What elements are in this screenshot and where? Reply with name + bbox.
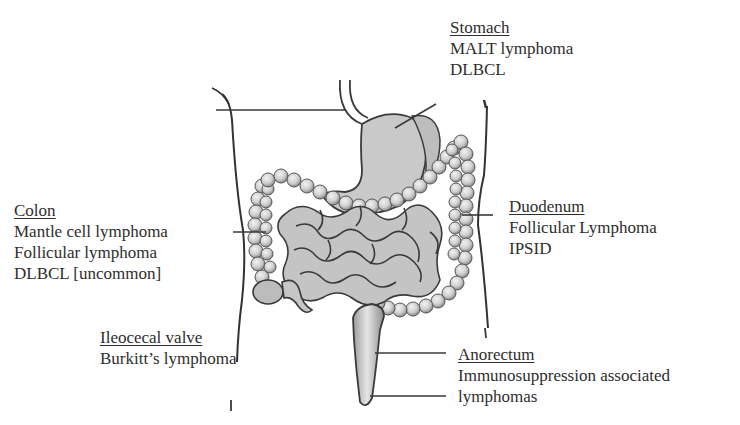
small-intestine-organ [278,205,442,305]
ileocecal-valve-label: Ileocecal valve Burkitt’s lymphoma [100,327,236,369]
rectum-organ [353,304,384,405]
colon-label: Colon Mantle cell lymphoma Follicular ly… [14,200,168,284]
stomach-heading: Stomach [450,17,573,38]
anorectum-heading: Anorectum [458,344,670,365]
body-outline-right [478,100,488,328]
colon-item: Follicular lymphoma [14,242,168,263]
esophagus [340,80,368,124]
duodenum-label: Duodenum Follicular Lymphoma IPSID [509,196,657,259]
stomach-item: DLBCL [450,59,573,80]
stomach-label: Stomach MALT lymphoma DLBCL [450,17,573,80]
ileocecal-heading: Ileocecal valve [100,327,236,348]
anorectum-item: lymphomas [458,386,670,407]
duodenum-heading: Duodenum [509,196,657,217]
duodenum-item: IPSID [509,238,657,259]
anorectum-label: Anorectum Immunosuppression associated l… [458,344,670,407]
duodenum-item: Follicular Lymphoma [509,217,657,238]
stomach-item: MALT lymphoma [450,38,573,59]
ileocecal-item: Burkitt’s lymphoma [100,348,236,369]
colon-item: Mantle cell lymphoma [14,221,168,242]
colon-heading: Colon [14,200,168,221]
gi-lymphoma-diagram: Stomach MALT lymphoma DLBCL Colon Mantle… [0,0,740,425]
colon-item: DLBCL [uncommon] [14,263,168,284]
body-outline-left [212,88,244,362]
anorectum-item: Immunosuppression associated [458,365,670,386]
